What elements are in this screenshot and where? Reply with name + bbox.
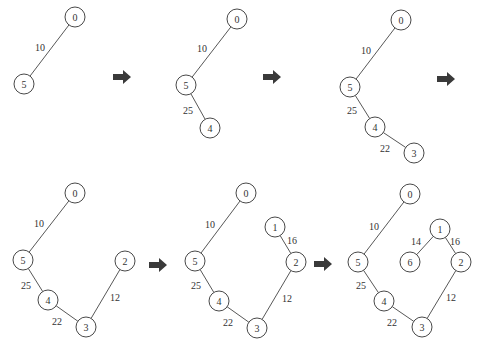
- node-label: 2: [294, 257, 299, 268]
- graph-node-5: 5: [185, 251, 205, 271]
- node-label: 4: [217, 296, 222, 307]
- graph-node-3: 3: [404, 143, 424, 163]
- edge-weight-label: 22: [387, 317, 397, 328]
- mst-steps-diagram: 1010251025221025221210252212161025221214…: [0, 0, 480, 347]
- right-arrow-icon: [314, 257, 332, 271]
- graph-node-5: 5: [14, 74, 34, 94]
- edge-5-4: [200, 270, 214, 293]
- edge-weight-label: 10: [197, 43, 207, 54]
- node-label: 4: [382, 296, 387, 307]
- node-label: 5: [21, 255, 26, 266]
- graph-node-5: 5: [13, 250, 33, 270]
- node-label: 5: [356, 257, 361, 268]
- node-label: 0: [73, 12, 78, 23]
- edge-weight-label: 10: [35, 42, 45, 53]
- graph-node-4: 4: [209, 291, 229, 311]
- right-arrow-icon: [113, 70, 131, 84]
- right-arrow-icon: [437, 72, 455, 86]
- edge-weight-label: 12: [282, 293, 292, 304]
- edge-weight-label: 10: [205, 219, 215, 230]
- node-label: 5: [348, 82, 353, 93]
- graph-node-5: 5: [176, 75, 196, 95]
- node-label: 5: [193, 256, 198, 267]
- nodes-layer: 050540543054320543210543216: [13, 7, 471, 338]
- graph-node-4: 4: [365, 117, 385, 137]
- edge-weight-label: 25: [356, 280, 366, 291]
- graph-node-3: 3: [412, 317, 432, 337]
- node-label: 4: [46, 295, 51, 306]
- edge-weight-label: 12: [446, 292, 456, 303]
- graph-node-0: 0: [236, 183, 256, 203]
- graph-node-2: 2: [286, 252, 306, 272]
- graph-node-0: 0: [391, 10, 411, 30]
- node-label: 3: [255, 323, 260, 334]
- graph-node-4: 4: [374, 291, 394, 311]
- right-arrow-icon: [263, 70, 281, 84]
- node-label: 0: [73, 188, 78, 199]
- graph-node-6: 6: [400, 252, 420, 272]
- node-label: 0: [244, 188, 249, 199]
- graph-node-4: 4: [38, 290, 58, 310]
- edge-weight-label: 22: [380, 143, 390, 154]
- edge-5-4: [191, 94, 205, 120]
- node-label: 5: [22, 79, 27, 90]
- node-label: 0: [399, 15, 404, 26]
- edge-weight-label: 10: [34, 218, 44, 229]
- graph-node-3: 3: [247, 318, 267, 338]
- node-label: 6: [408, 257, 413, 268]
- graph-node-1: 1: [265, 217, 285, 237]
- edge-weight-label: 10: [369, 221, 379, 232]
- node-label: 0: [408, 189, 413, 200]
- edge-weight-label: 25: [21, 280, 31, 291]
- edge-weight-label: 22: [52, 316, 62, 327]
- edge-weight-label: 25: [183, 105, 193, 116]
- node-label: 3: [420, 322, 425, 333]
- graph-node-0: 0: [65, 183, 85, 203]
- edge-weight-label: 25: [347, 105, 357, 116]
- node-label: 1: [438, 224, 443, 235]
- graph-node-0: 0: [65, 7, 85, 27]
- graph-node-5: 5: [340, 77, 360, 97]
- edge-weight-label: 14: [411, 236, 421, 247]
- graph-node-0: 0: [400, 184, 420, 204]
- graph-node-1: 1: [430, 219, 450, 239]
- node-label: 3: [412, 148, 417, 159]
- edge-weight-label: 16: [450, 236, 460, 247]
- node-label: 4: [373, 122, 378, 133]
- node-label: 3: [84, 322, 89, 333]
- edge-weight-label: 10: [361, 45, 371, 56]
- graph-node-2: 2: [115, 251, 135, 271]
- edge-weight-label: 22: [223, 317, 233, 328]
- edge-5-4: [355, 95, 369, 118]
- node-label: 5: [184, 80, 189, 91]
- graph-node-0: 0: [227, 9, 247, 29]
- node-label: 2: [123, 256, 128, 267]
- edge-weight-label: 16: [287, 235, 297, 246]
- graph-node-2: 2: [451, 252, 471, 272]
- edge-weight-label: 25: [191, 280, 201, 291]
- edge-weight-label: 12: [110, 292, 120, 303]
- graph-node-4: 4: [200, 118, 220, 138]
- edges-layer: [28, 25, 456, 322]
- node-label: 2: [459, 257, 464, 268]
- node-label: 0: [235, 14, 240, 25]
- node-label: 1: [273, 222, 278, 233]
- right-arrow-icon: [149, 258, 167, 272]
- graph-node-3: 3: [76, 317, 96, 337]
- graph-node-5: 5: [348, 252, 368, 272]
- node-label: 4: [208, 123, 213, 134]
